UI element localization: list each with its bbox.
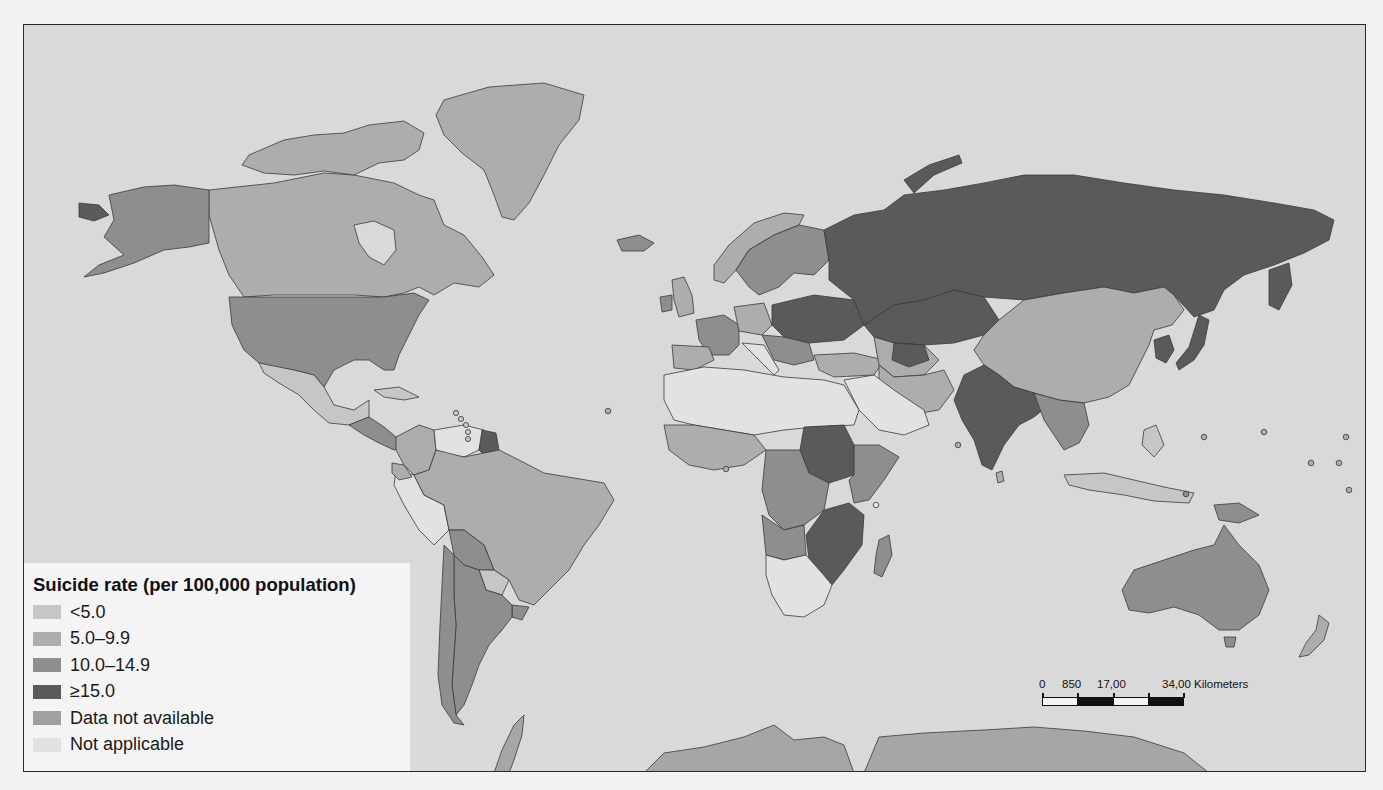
- legend-label: <5.0: [70, 602, 106, 623]
- legend-swatch: [33, 685, 61, 699]
- scale-segment: [1078, 698, 1113, 705]
- island-marker[interactable]: [465, 436, 470, 441]
- scale-segment: [1043, 698, 1078, 705]
- legend-item-5-10: 5.0–9.9: [33, 626, 410, 653]
- island-marker[interactable]: [1261, 429, 1267, 435]
- scale-label-850: 850: [1062, 678, 1081, 690]
- island-marker[interactable]: [458, 416, 463, 421]
- scale-bar-segments: [1042, 697, 1184, 706]
- legend-label: Not applicable: [70, 734, 184, 755]
- legend-item-gte15: ≥15.0: [33, 679, 410, 706]
- island-marker[interactable]: [605, 408, 611, 414]
- legend-swatch: [33, 605, 61, 619]
- island-marker[interactable]: [723, 466, 729, 472]
- scale-label-0: 0: [1039, 678, 1045, 690]
- island-marker[interactable]: [453, 410, 458, 415]
- scale-label-1700: 17,00: [1097, 678, 1126, 690]
- legend-swatch: [33, 632, 61, 646]
- legend-swatch: [33, 658, 61, 672]
- legend-label: ≥15.0: [70, 681, 115, 702]
- scale-bar: 0 850 17,00 34,00 Kilometers: [1037, 678, 1287, 718]
- region-tasmania[interactable]: [1224, 637, 1236, 647]
- island-marker[interactable]: [1183, 491, 1189, 497]
- legend-swatch: [33, 711, 61, 725]
- legend-label: 5.0–9.9: [70, 628, 130, 649]
- region-poland-belarus-ukraine[interactable]: [772, 295, 864, 343]
- legend-item-10-15: 10.0–14.9: [33, 652, 410, 679]
- island-marker[interactable]: [1343, 434, 1349, 440]
- legend-swatch: [33, 738, 61, 752]
- island-marker[interactable]: [955, 442, 961, 448]
- island-marker[interactable]: [1346, 487, 1352, 493]
- island-marker[interactable]: [873, 502, 879, 508]
- legend-label: 10.0–14.9: [70, 655, 150, 676]
- island-marker[interactable]: [1201, 434, 1207, 440]
- island-marker[interactable]: [463, 422, 468, 427]
- scale-segment: [1114, 698, 1149, 705]
- island-marker[interactable]: [465, 429, 470, 434]
- legend-item-lt5: <5.0: [33, 599, 410, 626]
- scale-segment: [1149, 698, 1183, 705]
- legend: Suicide rate (per 100,000 population) <5…: [24, 563, 410, 772]
- island-marker[interactable]: [1336, 460, 1342, 466]
- legend-item-not-applicable: Not applicable: [33, 732, 410, 759]
- region-ireland[interactable]: [660, 295, 672, 312]
- island-marker[interactable]: [1308, 460, 1314, 466]
- legend-item-no-data: Data not available: [33, 705, 410, 732]
- scale-label-3400: 34,00 Kilometers: [1162, 678, 1248, 690]
- legend-title: Suicide rate (per 100,000 population): [33, 573, 410, 597]
- map-frame: Suicide rate (per 100,000 population) <5…: [23, 24, 1366, 772]
- legend-label: Data not available: [70, 708, 214, 729]
